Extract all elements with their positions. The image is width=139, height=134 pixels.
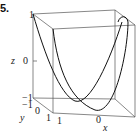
y-tick-1: 1 — [46, 113, 51, 123]
z-tick-0: 0 — [23, 56, 28, 66]
z-tick-1: 1 — [29, 10, 34, 20]
bounding-box — [33, 10, 135, 117]
curve — [33, 14, 128, 110]
x-tick-0: 0 — [96, 115, 101, 125]
y-axis-label: y — [20, 113, 24, 123]
x-axis-label: x — [103, 123, 107, 133]
z-axis-label: z — [11, 56, 15, 66]
x-tick-1: 1 — [57, 116, 62, 126]
y-tick-neg1: −1 — [22, 100, 33, 110]
y-tick-0: 0 — [35, 106, 40, 116]
